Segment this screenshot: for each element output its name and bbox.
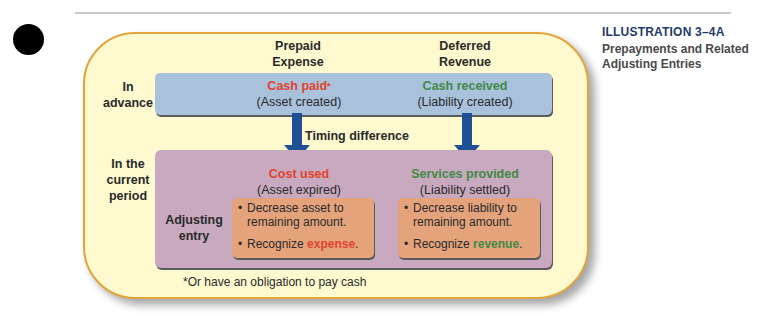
cost-used-label: Cost used <box>269 167 329 181</box>
row-label-line: advance <box>103 96 153 110</box>
asset-created-label: (Asset created) <box>257 95 342 109</box>
bullet-text: Decrease liability to remaining amount. <box>413 201 517 229</box>
row-label-line: In <box>122 80 133 94</box>
illustration-caption: Prepayments and Related Adjusting Entrie… <box>602 42 752 72</box>
column-header-prepaid-expense: Prepaid Expense <box>238 38 358 75</box>
adjusting-entry-box-prepaid: Decrease asset to remaining amount. Reco… <box>232 198 374 258</box>
section-marker-dot <box>13 24 44 55</box>
cash-paid-label: Cash paid <box>267 79 327 93</box>
row-label-line: In the <box>111 157 144 171</box>
column-header-line: Deferred <box>439 39 490 53</box>
services-provided-label: Services provided <box>411 167 519 181</box>
top-divider <box>75 12 731 14</box>
cash-received-label: Cash received <box>423 79 508 93</box>
bullet-text: . <box>519 237 522 251</box>
footnote: *Or have an obligation to pay cash <box>183 275 366 289</box>
footnote-marker: * <box>327 81 331 91</box>
row-label-line: period <box>109 189 147 203</box>
advance-cell-prepaid: Cash paid* (Asset created) <box>209 78 389 110</box>
advance-cell-deferred: Cash received (Liability created) <box>375 78 555 110</box>
column-header-deferred-revenue: Deferred Revenue <box>405 38 525 75</box>
timing-difference-label: Timing difference <box>305 129 409 143</box>
illustration-label: ILLUSTRATION 3–4A <box>602 25 725 39</box>
row-label-line: entry <box>179 229 210 243</box>
liability-created-label: (Liability created) <box>417 95 512 109</box>
column-header-line: Revenue <box>439 55 491 69</box>
adjusting-bullet: Recognize revenue. <box>404 237 534 251</box>
row-label-current-period: In the current period <box>100 156 156 204</box>
adjusting-bullet: Decrease liability to remaining amount. <box>404 201 534 229</box>
asset-expired-label: (Asset expired) <box>257 183 341 197</box>
current-cell-prepaid: Cost used (Asset expired) <box>209 166 389 198</box>
bullet-text: Decrease asset to remaining amount. <box>247 201 346 229</box>
current-cell-deferred: Services provided (Liability settled) <box>375 166 555 198</box>
bullet-text: Recognize <box>413 237 473 251</box>
row-label-in-advance: In advance <box>102 79 154 111</box>
column-header-line: Expense <box>272 55 323 69</box>
adjusting-bullet: Recognize expense. <box>238 237 368 251</box>
row-label-adjusting-entry: Adjusting entry <box>162 212 226 244</box>
row-label-line: Adjusting <box>165 213 223 227</box>
liability-settled-label: (Liability settled) <box>420 183 510 197</box>
row-label-line: current <box>106 173 149 187</box>
adjusting-bullet: Decrease asset to remaining amount. <box>238 201 368 229</box>
adjusting-entry-box-deferred: Decrease liability to remaining amount. … <box>398 198 540 258</box>
revenue-highlight: revenue <box>473 237 519 251</box>
bullet-text: Recognize <box>247 237 307 251</box>
expense-highlight: expense <box>307 237 355 251</box>
bullet-text: . <box>355 237 358 251</box>
column-header-line: Prepaid <box>275 39 321 53</box>
